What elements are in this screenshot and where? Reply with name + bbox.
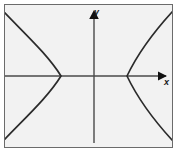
x-axis-label: x [164, 78, 169, 87]
hyperbola-figure: y x [0, 0, 181, 159]
plot-canvas [0, 0, 181, 159]
y-axis-label: y [94, 8, 99, 17]
